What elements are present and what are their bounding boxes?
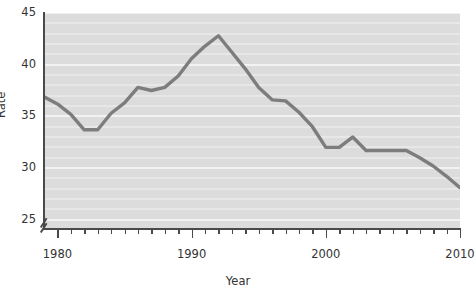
x-tick-minor bbox=[420, 229, 421, 234]
x-tick-minor bbox=[433, 229, 434, 234]
y-axis-line bbox=[43, 12, 45, 229]
x-tick-minor bbox=[259, 229, 260, 234]
x-tick-minor bbox=[447, 229, 448, 234]
x-tick-major bbox=[460, 229, 461, 238]
x-tick-minor bbox=[165, 229, 166, 234]
x-tick-label: 1990 bbox=[167, 248, 217, 260]
x-tick-minor bbox=[71, 229, 72, 234]
x-tick-minor bbox=[138, 229, 139, 234]
x-tick-minor bbox=[218, 229, 219, 234]
x-tick-minor bbox=[84, 229, 85, 234]
x-tick-minor bbox=[339, 229, 340, 234]
x-axis-line bbox=[43, 228, 461, 230]
x-tick-minor bbox=[353, 229, 354, 234]
x-tick-minor bbox=[125, 229, 126, 234]
x-tick-label: 2010 bbox=[435, 248, 476, 260]
x-tick-minor bbox=[245, 229, 246, 234]
x-tick-major bbox=[57, 229, 58, 238]
y-axis-title: Rate bbox=[0, 92, 8, 118]
y-tick-label: 25 bbox=[6, 214, 36, 226]
x-axis-title: Year bbox=[0, 274, 476, 288]
x-tick-label: 2000 bbox=[301, 248, 351, 260]
x-tick-major bbox=[192, 229, 193, 238]
x-tick-label: 1980 bbox=[32, 248, 82, 260]
chart-figure: 2530354045 1980199020002010 Rate Year bbox=[0, 0, 476, 294]
x-tick-minor bbox=[178, 229, 179, 234]
x-tick-minor bbox=[151, 229, 152, 234]
x-tick-minor bbox=[312, 229, 313, 234]
x-tick-minor bbox=[286, 229, 287, 234]
x-tick-minor bbox=[299, 229, 300, 234]
x-tick-minor bbox=[366, 229, 367, 234]
y-tick-label: 30 bbox=[6, 162, 36, 174]
y-tick-label: 40 bbox=[6, 59, 36, 71]
x-tick-minor bbox=[272, 229, 273, 234]
x-tick-minor bbox=[205, 229, 206, 234]
x-tick-minor bbox=[393, 229, 394, 234]
plot-area bbox=[44, 13, 460, 228]
x-tick-minor bbox=[232, 229, 233, 234]
x-tick-minor bbox=[379, 229, 380, 234]
x-tick-major bbox=[326, 229, 327, 238]
x-tick-minor bbox=[111, 229, 112, 234]
y-tick-label: 35 bbox=[6, 110, 36, 122]
x-tick-minor bbox=[98, 229, 99, 234]
data-line-series bbox=[44, 13, 460, 228]
x-tick-minor bbox=[406, 229, 407, 234]
y-tick-label: 45 bbox=[6, 7, 36, 19]
y-axis-break-icon bbox=[37, 216, 51, 232]
